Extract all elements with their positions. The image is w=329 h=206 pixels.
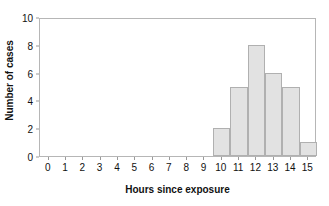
histogram-bar	[230, 87, 247, 157]
y-axis-tick-label: 6	[27, 68, 33, 79]
x-axis-tick-label: 4	[114, 162, 120, 173]
x-axis-tick-mark	[290, 157, 291, 160]
histogram-bar	[265, 73, 282, 156]
x-axis-tick-mark	[169, 157, 170, 160]
x-axis-tick-mark	[65, 157, 66, 160]
histogram-chart: Number of cases 0246810 0123456789101112…	[0, 0, 329, 206]
y-axis-title-text: Number of cases	[4, 40, 15, 121]
y-axis-tick-label: 10	[22, 13, 33, 24]
x-axis-tick-mark	[134, 157, 135, 160]
x-axis-title: Hours since exposure	[39, 184, 316, 195]
x-axis-tick-label: 12	[250, 162, 261, 173]
x-axis-tick-label: 2	[80, 162, 86, 173]
y-axis-title: Number of cases	[0, 0, 18, 160]
x-axis-tick-mark	[203, 157, 204, 160]
y-axis-tick-label: 2	[27, 124, 33, 135]
y-axis-ticks: 0246810	[18, 18, 36, 157]
x-axis-tick-label: 14	[284, 162, 295, 173]
x-axis-tick-label: 13	[267, 162, 278, 173]
x-axis-tick-mark	[307, 157, 308, 160]
x-axis-tick-label: 9	[201, 162, 207, 173]
x-axis-tick-label: 3	[97, 162, 103, 173]
x-axis-tick-mark	[152, 157, 153, 160]
x-axis-tick-mark	[48, 157, 49, 160]
x-axis-tick-label: 15	[302, 162, 313, 173]
histogram-bar	[213, 128, 230, 156]
x-axis-tick-mark	[273, 157, 274, 160]
plot-bars-container	[40, 19, 315, 156]
x-axis-tick-mark	[186, 157, 187, 160]
histogram-bar	[300, 142, 317, 156]
x-axis-tick-label: 11	[233, 162, 243, 173]
y-axis-tick-label: 4	[27, 96, 33, 107]
x-axis-tick-mark	[238, 157, 239, 160]
x-axis-tick-mark	[100, 157, 101, 160]
y-axis-tick-label: 0	[27, 152, 33, 163]
x-axis-tick-label: 5	[131, 162, 137, 173]
x-axis-tick-label: 8	[183, 162, 189, 173]
x-axis-tick-label: 10	[215, 162, 226, 173]
histogram-bar	[248, 45, 265, 156]
x-axis-tick-mark	[221, 157, 222, 160]
plot-area	[39, 18, 316, 157]
x-axis-tick-mark	[82, 157, 83, 160]
x-axis-tick-label: 6	[149, 162, 155, 173]
y-axis-tick-label: 8	[27, 40, 33, 51]
x-axis-tick-label: 1	[62, 162, 68, 173]
x-axis-tick-mark	[255, 157, 256, 160]
x-axis-tick-mark	[117, 157, 118, 160]
x-axis-tick-label: 0	[45, 162, 51, 173]
x-axis-tick-label: 7	[166, 162, 172, 173]
histogram-bar	[282, 87, 299, 157]
x-axis-ticks: 0123456789101112131415	[39, 157, 316, 179]
